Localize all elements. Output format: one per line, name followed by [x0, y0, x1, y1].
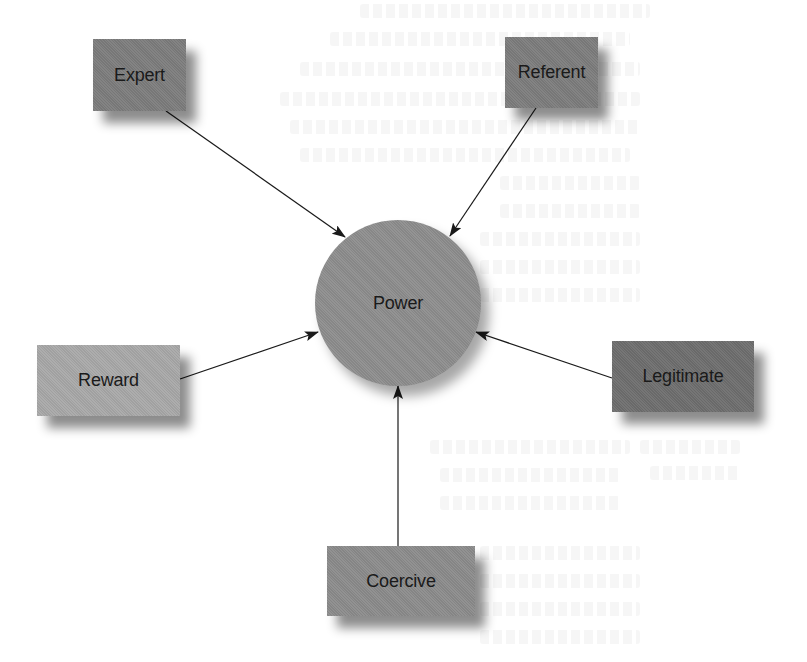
- node-power-label: Power: [373, 293, 423, 314]
- node-expert: Expert: [93, 39, 186, 111]
- edge-reward-to-power: [180, 332, 318, 379]
- node-referent: Referent: [505, 37, 598, 108]
- edge-legitimate-to-power: [476, 332, 612, 378]
- node-coercive-label: Coercive: [366, 571, 435, 592]
- node-legitimate-label: Legitimate: [642, 366, 723, 387]
- node-referent-label: Referent: [518, 62, 585, 83]
- node-reward: Reward: [37, 345, 180, 416]
- node-coercive: Coercive: [327, 546, 475, 616]
- node-legitimate: Legitimate: [612, 341, 754, 412]
- edge-referent-to-power: [450, 108, 536, 236]
- node-expert-label: Expert: [114, 65, 165, 86]
- node-reward-label: Reward: [78, 370, 139, 391]
- edge-expert-to-power: [166, 111, 345, 237]
- node-power: Power: [315, 220, 481, 386]
